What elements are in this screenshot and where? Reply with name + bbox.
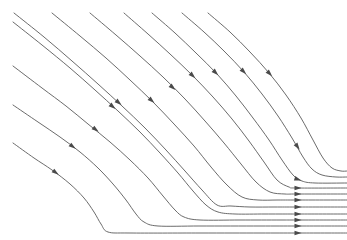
streamline-figure [0,0,347,240]
figure-background [0,0,347,240]
streamline-canvas [0,0,347,240]
